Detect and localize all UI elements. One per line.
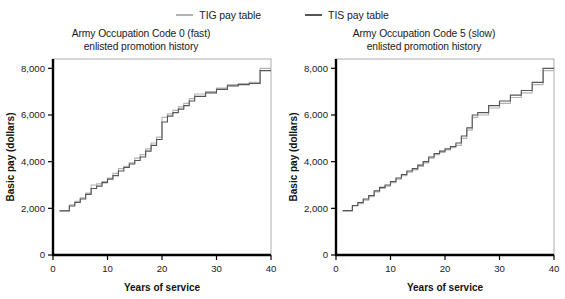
x-tick-label: 20 xyxy=(440,263,451,274)
legend-label-tig: TIG pay table xyxy=(199,9,261,21)
legend-swatch-tis xyxy=(305,14,322,16)
y-axis-title: Basic pay (dollars) xyxy=(5,113,16,202)
figure-root: TIG pay table TIS pay table Army Occupat… xyxy=(0,0,565,299)
x-tick-label: 10 xyxy=(102,263,113,274)
legend-label-tis: TIS pay table xyxy=(328,9,389,21)
series-line-tis xyxy=(60,71,271,211)
y-tick-label: 6,000 xyxy=(304,109,328,120)
legend-entry-tig: TIG pay table xyxy=(176,9,261,21)
x-tick-label: 20 xyxy=(157,263,168,274)
x-tick-label: 30 xyxy=(211,263,222,274)
chart-panel-right: Army Occupation Code 5 (slow) enlisted p… xyxy=(283,26,565,299)
plot-frame xyxy=(336,59,554,255)
series-line-tis xyxy=(343,68,554,210)
y-tick-label: 2,000 xyxy=(21,203,45,214)
y-axis-title: Basic pay (dollars) xyxy=(288,113,299,202)
plot-area-left: 02,0004,0006,0008,000010203040Years of s… xyxy=(0,26,282,299)
chart-panel-left: Army Occupation Code 0 (fast) enlisted p… xyxy=(0,26,282,299)
plot-frame xyxy=(53,59,271,255)
chart-legend: TIG pay table TIS pay table xyxy=(0,4,565,26)
x-tick-label: 40 xyxy=(549,263,560,274)
y-tick-label: 8,000 xyxy=(21,63,45,74)
x-tick-label: 40 xyxy=(266,263,277,274)
plot-area-right: 02,0004,0006,0008,000010203040Years of s… xyxy=(283,26,565,299)
y-tick-label: 4,000 xyxy=(304,156,328,167)
x-tick-label: 30 xyxy=(494,263,505,274)
legend-swatch-tig xyxy=(176,14,193,16)
legend-entry-tis: TIS pay table xyxy=(305,9,389,21)
x-axis-title: Years of service xyxy=(407,282,484,293)
y-tick-label: 0 xyxy=(40,249,45,260)
y-tick-label: 4,000 xyxy=(21,156,45,167)
y-tick-label: 2,000 xyxy=(304,203,328,214)
y-tick-label: 6,000 xyxy=(21,109,45,120)
y-tick-label: 8,000 xyxy=(304,63,328,74)
x-axis-title: Years of service xyxy=(124,282,201,293)
y-tick-label: 0 xyxy=(323,249,328,260)
x-tick-label: 10 xyxy=(385,263,396,274)
x-tick-label: 0 xyxy=(333,263,338,274)
series-line-tig xyxy=(343,71,554,211)
x-tick-label: 0 xyxy=(50,263,55,274)
